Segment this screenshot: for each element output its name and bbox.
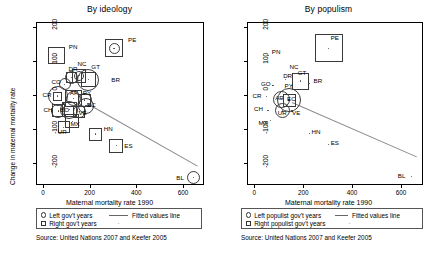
point-label-go: GO bbox=[261, 80, 271, 87]
circle-marker-icon bbox=[41, 212, 46, 217]
legend-label-left-populist: Left populist gov't years bbox=[254, 212, 321, 219]
point-label-mx: MX bbox=[70, 120, 79, 127]
x-tick-label: 0 bbox=[239, 189, 269, 196]
y-tick-label: -100 bbox=[51, 121, 58, 141]
y-tick-label: 0 bbox=[51, 87, 58, 107]
point-label-ve: VE bbox=[78, 109, 86, 116]
point-label-gt: GT bbox=[298, 69, 307, 76]
y-tick-mark bbox=[244, 129, 247, 130]
point-label-gt: GT bbox=[91, 63, 100, 70]
legend-entry-fit: Fitted values line bbox=[335, 212, 400, 219]
legend-right: Left populist gov't years Fitted values … bbox=[241, 208, 423, 229]
x-tick-mark bbox=[90, 185, 91, 188]
x-tick-mark bbox=[43, 185, 44, 188]
x-tick-mark bbox=[254, 185, 255, 188]
plot-frame-left: PNPENCGTBRDRCOCRARPYECCHBOVEMXURHNESBL bbox=[36, 22, 204, 185]
x-tick-mark bbox=[183, 185, 184, 188]
data-point-ch bbox=[58, 110, 59, 111]
fit-line-icon bbox=[109, 215, 128, 216]
point-label-ar: AR bbox=[70, 89, 79, 96]
legend-entry-left-gov: Left gov't years bbox=[41, 212, 92, 219]
point-label-br: BR bbox=[314, 77, 323, 84]
data-point-hn bbox=[309, 133, 310, 134]
point-label-br: BR bbox=[111, 76, 120, 83]
y-tick-label: -200 bbox=[262, 155, 269, 175]
point-label-ur: UR bbox=[278, 109, 287, 116]
point-label-dr: DR bbox=[69, 65, 78, 72]
source-note-right: Source: United Nations 2007 and Keefer 2… bbox=[241, 234, 372, 241]
y-tick-mark bbox=[33, 163, 36, 164]
panel-by-populism: By populism PNPENCGTBRDRGOPYCRARECCHURVE… bbox=[219, 0, 438, 258]
y-tick-mark bbox=[244, 27, 247, 28]
plot-area-right: PNPENCGTBRDRGOPYCRARECCHURVEMXHNESBL bbox=[248, 23, 422, 184]
point-label-cr: CR bbox=[253, 92, 262, 99]
data-point-ch bbox=[267, 110, 268, 111]
data-point-br bbox=[309, 83, 310, 84]
panel-by-ideology: By ideology Change in maternal mortality… bbox=[0, 0, 219, 258]
data-point-co bbox=[64, 84, 65, 85]
square-marker-icon bbox=[246, 221, 251, 226]
y-tick-label: 200 bbox=[51, 19, 58, 39]
data-point-es bbox=[328, 144, 329, 145]
dot-marker-icon: · bbox=[109, 220, 128, 227]
y-tick-mark bbox=[33, 27, 36, 28]
y-tick-mark bbox=[33, 61, 36, 62]
x-axis-label-left: Maternal mortality rate 1990 bbox=[0, 199, 219, 206]
point-label-nc: NC bbox=[77, 60, 86, 67]
fitted-values-line bbox=[87, 103, 198, 167]
x-tick-label: 600 bbox=[386, 189, 416, 196]
panel-title-left: By ideology bbox=[0, 4, 219, 14]
source-note-left: Source: United Nations 2007 and Keefer 2… bbox=[36, 234, 167, 241]
y-tick-mark bbox=[33, 129, 36, 130]
legend-label-fit: Fitted values line bbox=[132, 212, 180, 219]
point-label-es: ES bbox=[331, 139, 339, 146]
legend-label-left-gov: Left gov't years bbox=[49, 212, 92, 219]
legend-entry-dot: · bbox=[340, 220, 359, 227]
x-tick-label: 400 bbox=[121, 189, 151, 196]
legend-label-fit: Fitted values line bbox=[352, 212, 400, 219]
y-tick-label: -200 bbox=[51, 155, 58, 175]
legend-label-right-populist: Right populist gov't years bbox=[254, 220, 325, 227]
circle-marker-icon bbox=[246, 212, 251, 217]
x-tick-mark bbox=[401, 185, 402, 188]
x-axis-label-right: Maternal mortality rate 1990 bbox=[219, 199, 438, 206]
point-label-dr: DR bbox=[283, 72, 292, 79]
y-tick-mark bbox=[33, 95, 36, 96]
y-tick-label: 0 bbox=[262, 87, 269, 107]
point-label-bl: BL bbox=[176, 174, 184, 181]
fit-line-icon bbox=[335, 215, 348, 216]
y-tick-label: -100 bbox=[262, 121, 269, 141]
point-label-bl: BL bbox=[398, 172, 406, 179]
point-label-es: ES bbox=[124, 142, 132, 149]
data-point-mx bbox=[270, 120, 271, 121]
legend-entry-dot: · bbox=[109, 220, 128, 227]
fitted-values-line bbox=[292, 102, 417, 157]
x-tick-label: 0 bbox=[28, 189, 58, 196]
point-label-ur: UR bbox=[58, 128, 67, 135]
square-marker-icon bbox=[41, 221, 46, 226]
legend-entry-left-populist: Left populist gov't years bbox=[246, 212, 321, 219]
point-label-py: PY bbox=[83, 89, 91, 96]
figure-root: By ideology Change in maternal mortality… bbox=[0, 0, 438, 258]
point-label-pe: PE bbox=[128, 36, 136, 43]
point-label-bo: BO bbox=[60, 106, 69, 113]
legend-entry-right-gov: Right gov't years bbox=[41, 220, 97, 227]
legend-left: Left gov't years Fitted values line Righ… bbox=[36, 208, 202, 229]
legend-entry-fit: Fitted values line bbox=[109, 212, 180, 219]
y-tick-mark bbox=[244, 95, 247, 96]
point-label-ec: EC bbox=[87, 101, 96, 108]
point-label-ec: EC bbox=[287, 95, 296, 102]
plot-area-left: PNPENCGTBRDRCOCRARPYECCHBOVEMXURHNESBL bbox=[37, 23, 203, 184]
x-tick-mark bbox=[136, 185, 137, 188]
y-axis-label-left: Change in maternal mortality rate bbox=[9, 88, 16, 186]
data-point-bl bbox=[193, 177, 194, 178]
legend-label-right-gov: Right gov't years bbox=[49, 220, 96, 227]
panel-title-right: By populism bbox=[219, 4, 438, 14]
data-point-bl bbox=[411, 176, 412, 177]
plot-frame-right: PNPENCGTBRDRGOPYCRARECCHURVEMXHNESBL bbox=[247, 22, 423, 185]
data-point-dr bbox=[71, 77, 72, 78]
x-tick-label: 400 bbox=[337, 189, 367, 196]
y-tick-label: 100 bbox=[262, 53, 269, 73]
point-label-pe: PE bbox=[331, 34, 339, 41]
x-tick-label: 200 bbox=[288, 189, 318, 196]
